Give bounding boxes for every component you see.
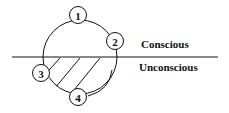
node-4: 4 [70,89,87,106]
node-3: 3 [33,65,50,82]
conscious-label: Conscious [141,38,189,50]
diagram-canvas: 1 2 3 4 Conscious Unconscious [0,0,229,113]
unconscious-label: Unconscious [139,61,198,73]
svg-text:4: 4 [75,92,81,104]
consciousness-cycle-diagram: 1 2 3 4 Conscious Unconscious [0,0,229,113]
svg-text:3: 3 [38,68,44,80]
svg-text:2: 2 [112,36,118,48]
node-1: 1 [70,7,87,24]
svg-text:1: 1 [75,10,81,22]
node-2: 2 [107,33,124,50]
